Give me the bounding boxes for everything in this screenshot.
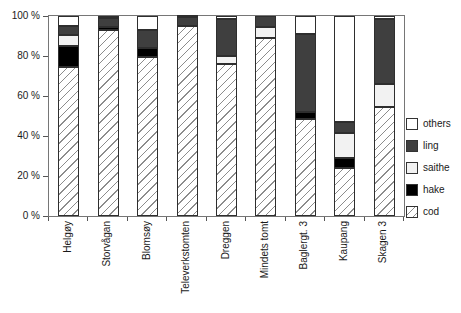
- bar-baglergt-3: [295, 16, 316, 216]
- y-tick-mark: [43, 176, 48, 177]
- y-tick-mark: [43, 56, 48, 57]
- segment-hake: [137, 48, 158, 57]
- legend-label: hake: [423, 184, 445, 196]
- segment-cod: [295, 119, 316, 216]
- legend-label: cod: [423, 206, 439, 218]
- bar-skagen-3: [374, 16, 395, 216]
- segment-hake: [295, 112, 316, 119]
- segment-saithe: [216, 56, 237, 64]
- segment-cod: [177, 26, 198, 216]
- x-axis-label: Baglergt. 3: [298, 221, 310, 269]
- segment-saithe: [58, 35, 79, 46]
- bar-blomsøy: [137, 16, 158, 216]
- legend: otherslingsaithehakecod: [406, 118, 451, 228]
- x-axis-label: Storvågan: [101, 221, 113, 267]
- x-axis-label: Mindets tomt: [259, 221, 271, 278]
- x-axis-label: Blomsøy: [141, 221, 153, 260]
- y-tick-label: 40 %: [0, 130, 40, 142]
- x-tick-mark: [48, 217, 49, 221]
- cod-swatch-icon: [406, 206, 418, 218]
- x-axis-label: Dreggen: [220, 221, 232, 259]
- segment-ling: [216, 19, 237, 56]
- legend-item-saithe: saithe: [406, 162, 451, 174]
- stacked-bar-chart-figure: otherslingsaithehakecod 100 %80 %60 %40 …: [0, 0, 461, 313]
- bar-televerkstomten: [177, 15, 198, 216]
- segment-ling: [255, 16, 276, 27]
- segment-ling: [137, 30, 158, 48]
- x-tick-mark: [245, 217, 246, 221]
- segment-hake: [58, 46, 79, 67]
- y-tick-label: 0 %: [0, 210, 40, 222]
- x-tick-mark: [87, 217, 88, 221]
- segment-ling: [295, 34, 316, 112]
- y-tick-label: 20 %: [0, 170, 40, 182]
- x-tick-mark: [166, 217, 167, 221]
- bar-helgøy: [58, 16, 79, 216]
- x-tick-mark: [206, 217, 207, 221]
- segment-cod: [255, 38, 276, 216]
- bar-kaupang: [334, 16, 355, 216]
- x-tick-mark: [364, 217, 365, 221]
- x-tick-mark: [324, 217, 325, 221]
- saithe-swatch-icon: [406, 162, 418, 174]
- segment-hake: [334, 158, 355, 168]
- segment-cod: [216, 64, 237, 216]
- y-tick-mark: [43, 136, 48, 137]
- bar-dreggen: [216, 16, 237, 216]
- segment-saithe: [334, 133, 355, 158]
- y-tick-mark: [43, 16, 48, 17]
- segment-others: [137, 16, 158, 30]
- segment-cod: [58, 67, 79, 216]
- ling-swatch-icon: [406, 140, 418, 152]
- bar-mindets-tomt: [255, 16, 276, 216]
- x-tick-mark: [403, 217, 404, 221]
- segment-ling: [98, 18, 119, 27]
- y-tick-label: 80 %: [0, 50, 40, 62]
- bar-storv-gan: [98, 16, 119, 216]
- x-axis-label: Skagen 3: [377, 221, 389, 263]
- x-tick-mark: [285, 217, 286, 221]
- segment-cod: [334, 168, 355, 216]
- x-axis-label: Helgøy: [62, 221, 74, 253]
- y-tick-mark: [43, 96, 48, 97]
- x-tick-mark: [127, 217, 128, 221]
- segment-cod: [374, 107, 395, 216]
- segment-saithe: [374, 84, 395, 107]
- plot-area: [48, 15, 405, 217]
- hake-swatch-icon: [406, 184, 418, 196]
- y-tick-label: 100 %: [0, 10, 40, 22]
- segment-ling: [334, 122, 355, 133]
- legend-label: saithe: [423, 162, 450, 174]
- legend-item-hake: hake: [406, 184, 451, 196]
- segment-ling: [177, 17, 198, 26]
- others-swatch-icon: [406, 118, 418, 130]
- x-axis-label: Kaupang: [338, 221, 350, 261]
- y-tick-label: 60 %: [0, 90, 40, 102]
- segment-ling: [374, 19, 395, 84]
- segment-saithe: [255, 27, 276, 38]
- segment-others: [334, 16, 355, 122]
- legend-item-others: others: [406, 118, 451, 130]
- segment-others: [295, 16, 316, 34]
- segment-cod: [98, 30, 119, 216]
- segment-ling: [58, 26, 79, 35]
- legend-label: ling: [423, 140, 439, 152]
- x-axis-label: Televerkstomten: [180, 221, 192, 294]
- legend-item-ling: ling: [406, 140, 451, 152]
- segment-cod: [137, 57, 158, 216]
- legend-item-cod: cod: [406, 206, 451, 218]
- legend-label: others: [423, 118, 451, 130]
- segment-others: [58, 16, 79, 26]
